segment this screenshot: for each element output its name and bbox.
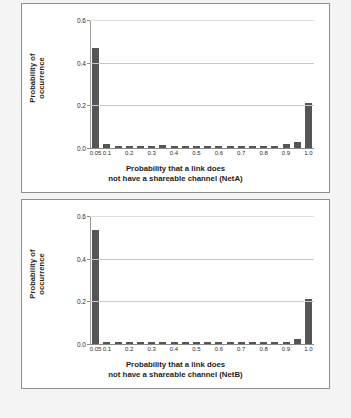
bar: [159, 342, 166, 345]
bar: [126, 342, 133, 345]
bar: [148, 146, 155, 149]
y-tick-label: 0.6: [77, 213, 86, 220]
figure-container: Probability of occurrence 0.00.20.40.6 0…: [0, 0, 351, 418]
bar: [215, 342, 222, 345]
gridline: [90, 301, 314, 302]
y-tick-label: 0.6: [77, 17, 86, 24]
bar: [249, 342, 256, 345]
bar: [92, 230, 99, 344]
gridline: [90, 63, 314, 64]
y-axis-title-neta: Probability of occurrence: [26, 30, 48, 126]
bar: [283, 342, 290, 345]
bar: [294, 142, 301, 148]
x-tick-label: 0.6: [215, 346, 223, 352]
y-tick-label: 0.4: [77, 255, 86, 262]
x-tick-label: 1.0: [304, 346, 312, 352]
x-tick-labels-neta: 0.050.10.20.30.40.50.60.70.80.91.0: [90, 150, 314, 162]
bar: [215, 146, 222, 149]
gridline: [90, 20, 314, 21]
bar: [182, 342, 189, 345]
gridline: [90, 216, 314, 217]
y-tick-label: 0.4: [77, 59, 86, 66]
x-axis-title-line2: not have a shareable channel (NetA): [22, 174, 329, 184]
bar: [260, 342, 267, 345]
x-tick-labels-netb: 0.050.10.20.30.40.50.60.70.80.91.0: [90, 346, 314, 358]
bar: [193, 146, 200, 149]
bar: [271, 146, 278, 149]
bar: [227, 342, 234, 345]
gridline: [90, 259, 314, 260]
x-tick-label: 0.7: [237, 150, 245, 156]
x-tick-label: 0.05: [90, 150, 102, 156]
x-tick-label: 0.1: [103, 150, 111, 156]
bar: [182, 146, 189, 149]
x-tick-label: 0.8: [259, 150, 267, 156]
y-axis-title-netb: Probability of occurrence: [26, 226, 48, 322]
bar: [227, 146, 234, 149]
y-tick-mark: [87, 259, 90, 260]
bar: [103, 342, 110, 345]
y-tick-mark: [87, 20, 90, 21]
bar: [159, 145, 166, 148]
bar: [204, 342, 211, 345]
x-axis-line-netb: [90, 344, 314, 345]
bar: [103, 144, 110, 148]
y-tick-label: 0.2: [77, 298, 86, 305]
x-tick-label: 0.9: [282, 346, 290, 352]
y-axis-title-line1: Probability of: [28, 53, 37, 102]
x-tick-label: 0.4: [170, 346, 178, 352]
y-tick-label: 0.0: [77, 341, 86, 348]
chart-panel-neta: Probability of occurrence 0.00.20.40.6 0…: [21, 3, 330, 193]
x-tick-label: 0.7: [237, 346, 245, 352]
x-axis-title-line2: not have a shareable channel (NetB): [22, 370, 329, 380]
y-tick-label: 0.2: [77, 102, 86, 109]
y-tick-mark: [87, 344, 90, 345]
bar: [294, 339, 301, 344]
x-tick-label: 0.2: [125, 150, 133, 156]
x-tick-label: 0.8: [259, 346, 267, 352]
bar: [115, 342, 122, 345]
x-tick-label: 0.1: [103, 346, 111, 352]
chart-panel-netb: Probability of occurrence 0.00.20.40.6 0…: [21, 199, 330, 389]
x-tick-label: 0.3: [147, 346, 155, 352]
x-axis-title-line1: Probability that a link does: [22, 360, 329, 370]
plot-area-netb: 0.00.20.40.6: [90, 216, 314, 344]
x-axis-title-neta: Probability that a link does not have a …: [22, 164, 329, 184]
y-tick-mark: [87, 216, 90, 217]
bars-neta: [90, 20, 314, 148]
x-tick-label: 0.2: [125, 346, 133, 352]
x-tick-label: 0.5: [192, 150, 200, 156]
bar: [137, 146, 144, 149]
x-tick-label: 0.9: [282, 150, 290, 156]
x-tick-label: 0.05: [90, 346, 102, 352]
bar: [260, 146, 267, 149]
y-tick-mark: [87, 105, 90, 106]
bar: [305, 103, 312, 148]
bar: [283, 144, 290, 148]
bar: [115, 146, 122, 149]
bar: [238, 342, 245, 345]
x-axis-title-netb: Probability that a link does not have a …: [22, 360, 329, 380]
y-axis-title-line1: Probability of: [28, 249, 37, 298]
bar: [193, 342, 200, 345]
y-tick-mark: [87, 301, 90, 302]
x-tick-label: 0.4: [170, 150, 178, 156]
x-axis-title-line1: Probability that a link does: [22, 164, 329, 174]
y-tick-mark: [87, 148, 90, 149]
bar: [249, 146, 256, 149]
bar: [137, 342, 144, 345]
bar: [126, 146, 133, 149]
x-tick-label: 0.3: [147, 150, 155, 156]
x-tick-label: 1.0: [304, 150, 312, 156]
y-axis-title-line2: occurrence: [37, 57, 46, 98]
bar: [271, 342, 278, 345]
y-tick-label: 0.0: [77, 145, 86, 152]
bar: [171, 146, 178, 149]
plot-area-neta: 0.00.20.40.6: [90, 20, 314, 148]
bar: [305, 299, 312, 344]
y-tick-mark: [87, 63, 90, 64]
bars-netb: [90, 216, 314, 344]
bar: [238, 146, 245, 149]
x-tick-label: 0.6: [215, 150, 223, 156]
bar: [148, 342, 155, 345]
